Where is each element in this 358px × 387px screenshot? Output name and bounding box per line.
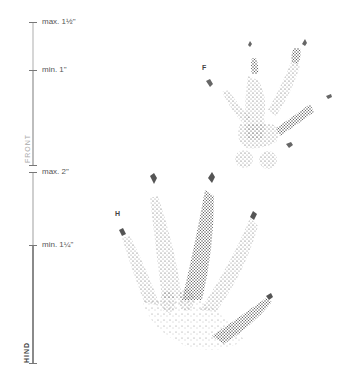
footprints-illustration xyxy=(0,0,358,387)
front-foot-icon xyxy=(206,39,332,169)
hind-foot-icon xyxy=(119,172,273,350)
